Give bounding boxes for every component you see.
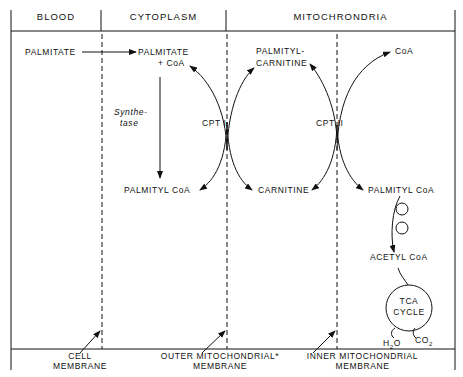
cpt2-curve-left-up	[310, 64, 337, 140]
palmitate-blood-label: PALMITATE	[25, 47, 76, 57]
carnitine-label: CARNITINE	[258, 185, 309, 195]
palmitylcarnitine-label-2: CARNITINE	[256, 58, 307, 68]
cpt2-curve-left-down	[312, 125, 337, 190]
palmityl-coa-mitochondria-label: PALMITYL CoA	[368, 185, 434, 195]
co2-co: CO	[415, 335, 429, 345]
palmitylcarnitine-label-1: PALMITYL-	[256, 46, 305, 56]
h2o-hook	[392, 328, 396, 338]
h2o-label: H2O	[383, 338, 401, 352]
spiral-loop-1	[396, 203, 408, 215]
cpt2-label: CPT II	[316, 118, 344, 128]
cpt1-curve-left-up	[190, 66, 227, 150]
cpt1-label: CPT I	[202, 118, 227, 128]
cpt1-curve-right-up	[227, 68, 254, 150]
acetyl-coa-label: ACETYL CoA	[370, 252, 428, 262]
cpt2-curve-right-down	[337, 125, 363, 190]
outer-membrane-pointer	[202, 331, 225, 353]
palmitate-cytoplasm-label: PALMITATE	[138, 47, 189, 57]
cell-membrane-label-2: MEMBRANE	[40, 361, 120, 371]
column-header-blood: BLOOD	[11, 11, 101, 22]
spiral-loop-2	[396, 222, 408, 234]
inner-membrane-pointer	[313, 331, 335, 353]
inner-membrane-label-2: MEMBRANE	[300, 361, 425, 371]
column-header-mitochondria: MITOCHRONDRIA	[226, 11, 455, 22]
plus-coa-label: + CoA	[158, 58, 185, 68]
h2o-o: O	[394, 338, 401, 348]
cell-membrane-label-1: CELL	[40, 351, 120, 361]
acetyl-to-tca-line	[398, 268, 408, 285]
cell-membrane-pointer	[80, 331, 100, 353]
cpt1-curve-left-down	[200, 122, 227, 190]
outer-membrane-label-2: MEMBRANE	[150, 361, 290, 371]
h2o-h: H	[383, 338, 390, 348]
synthetase-label-2: tase	[120, 118, 138, 128]
cpt2-curve-right-up	[337, 52, 390, 150]
tca-label-1: TCA	[389, 296, 429, 306]
tca-label-2: CYCLE	[389, 307, 429, 317]
cpt1-curve-right-down	[227, 122, 252, 190]
column-header-cytoplasm: CYTOPLASM	[101, 11, 226, 22]
palmityl-coa-cytoplasm-label: PALMITYL CoA	[124, 185, 190, 195]
synthetase-label-1: Synthe-	[114, 107, 148, 117]
outer-membrane-label-1: OUTER MITOCHONDRIAL*	[150, 351, 290, 361]
co2-label: CO2	[415, 335, 433, 349]
coa-mitochondria-label: CoA	[395, 46, 413, 56]
co2-sub: 2	[429, 341, 433, 347]
inner-membrane-label-1: INNER MITOCHONDRIAL	[300, 351, 425, 361]
